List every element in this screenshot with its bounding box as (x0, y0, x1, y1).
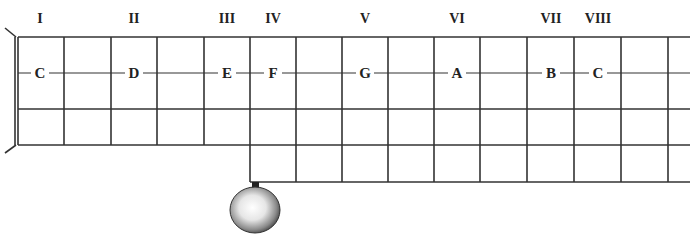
position-labels: IIIIIIIVVVIVIIVIII (37, 11, 611, 26)
position-label: I (37, 11, 42, 26)
tuning-peg-icon (230, 182, 280, 233)
position-label: VIII (585, 11, 611, 26)
note-label: A (452, 65, 463, 81)
fretboard-diagram: IIIIIIIVVVIVIIVIII CDEFGABC (0, 0, 690, 241)
strings (18, 37, 690, 182)
position-label: IV (265, 11, 281, 26)
note-label: B (546, 65, 556, 81)
position-label: V (360, 11, 370, 26)
note-label: G (359, 65, 371, 81)
position-label: VII (540, 11, 561, 26)
nut (5, 28, 18, 153)
note-label: C (593, 65, 604, 81)
note-label: D (129, 65, 140, 81)
note-label: F (268, 65, 277, 81)
note-label: E (222, 65, 232, 81)
note-label: C (35, 65, 46, 81)
position-label: II (129, 11, 140, 26)
position-label: III (219, 11, 235, 26)
position-label: VI (449, 11, 465, 26)
